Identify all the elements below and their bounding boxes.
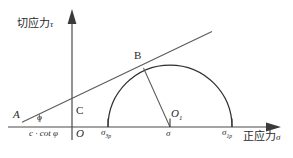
origin-label-o: O [76, 128, 84, 139]
x-axis-label: 正应力σ [243, 131, 280, 142]
mohr-circle-semicircle [108, 65, 232, 127]
radius-line-O1-B [144, 68, 171, 127]
point-label-c: C [76, 105, 83, 116]
angle-label-phi: φ [37, 113, 42, 122]
tick-label-sigma1p: σ1p [222, 128, 232, 139]
tick-label-sigma3p: σ3p [101, 128, 111, 139]
point-label-a: A [13, 109, 20, 120]
failure-envelope-line [22, 32, 212, 123]
figure-canvas: 切应力τ 正应力σ A φ C B O1 O c · cot φ σ3p σ σ… [0, 0, 293, 158]
cohesion-cot-label: c · cot φ [29, 129, 58, 138]
y-axis-label: 切应力τ [17, 18, 53, 29]
y-axis [68, 9, 77, 140]
point-label-o1: O1 [171, 108, 182, 122]
y-axis-arrowhead [68, 9, 77, 24]
tick-label-sigma-center: σ [166, 129, 170, 140]
point-label-b: B [134, 50, 141, 61]
